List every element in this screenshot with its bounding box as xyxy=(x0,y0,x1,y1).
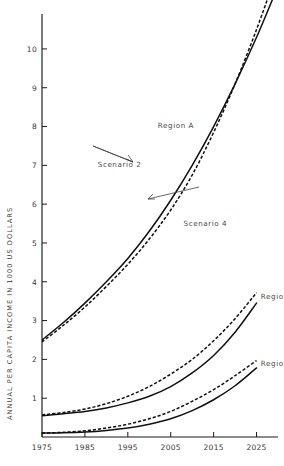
y-tick-label: 2 xyxy=(32,355,37,364)
y-tick-label: 4 xyxy=(32,278,37,287)
y-axis-ticks: 12345678910 xyxy=(27,45,47,403)
y-tick-label: 8 xyxy=(32,122,37,131)
y-tick-label: 1 xyxy=(32,394,37,403)
line-chart: ANNUAL PER CAPITA INCOME IN 1000 US DOLL… xyxy=(0,0,284,466)
series-annotations: Region AScenario 2Scenario 4Region 6Regi… xyxy=(98,121,284,368)
x-tick-label: 1975 xyxy=(32,443,52,452)
y-tick-label: 10 xyxy=(27,45,37,54)
annotation-leaders xyxy=(93,146,199,199)
series-annotation-label: Scenario 2 xyxy=(98,160,142,169)
y-tick-label: 9 xyxy=(32,84,37,93)
series-curve xyxy=(42,0,274,342)
data-curves xyxy=(42,0,274,433)
x-axis-ticks: 197519851995200520152025 xyxy=(32,432,267,452)
series-annotation-label: Region 6 xyxy=(261,292,284,301)
y-tick-label: 6 xyxy=(32,200,37,209)
series-annotation-label: Region 9 xyxy=(261,359,284,368)
x-tick-label: 2005 xyxy=(161,443,181,452)
x-tick-label: 1995 xyxy=(118,443,138,452)
series-curve xyxy=(42,303,257,416)
series-annotation-label: Scenario 4 xyxy=(184,219,228,228)
series-curve xyxy=(42,368,257,433)
chart-container: ANNUAL PER CAPITA INCOME IN 1000 US DOLL… xyxy=(0,0,284,466)
y-axis-title: ANNUAL PER CAPITA INCOME IN 1000 US DOLL… xyxy=(6,207,14,420)
series-curve xyxy=(42,0,274,340)
x-tick-label: 2015 xyxy=(203,443,223,452)
y-tick-label: 5 xyxy=(32,239,37,248)
x-tick-label: 1985 xyxy=(75,443,95,452)
x-tick-label: 2025 xyxy=(246,443,266,452)
y-tick-label: 7 xyxy=(32,161,37,170)
y-axis-title-label: ANNUAL PER CAPITA INCOME IN 1000 US DOLL… xyxy=(6,207,14,420)
series-annotation-label: Region A xyxy=(158,121,194,130)
y-tick-label: 3 xyxy=(32,316,37,325)
